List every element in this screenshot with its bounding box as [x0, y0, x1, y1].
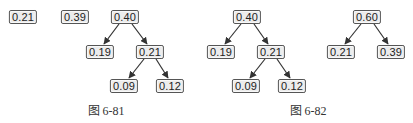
node-0.12: 0.12: [278, 79, 306, 93]
node-0.40-root: 0.40: [233, 10, 261, 24]
node-0.12: 0.12: [156, 79, 184, 93]
node-0.60-root: 0.60: [353, 10, 381, 24]
node-0.19: 0.19: [207, 45, 235, 59]
node-0.40-root: 0.40: [111, 10, 139, 24]
edge-arrow: [225, 24, 241, 44]
node-0.21-internal: 0.21: [136, 45, 164, 59]
node-0.39: 0.39: [377, 45, 405, 59]
node-0.21-internal: 0.21: [257, 45, 285, 59]
node-0.09: 0.09: [232, 79, 260, 93]
node-0.39-standalone: 0.39: [61, 10, 89, 24]
edge-arrow: [156, 59, 168, 78]
figure-caption-6-82: 图 6-82: [290, 101, 327, 119]
edge-arrow: [129, 59, 144, 78]
edge-arrow: [345, 24, 361, 44]
node-0.21-standalone: 0.21: [9, 10, 37, 24]
edge-arrow: [254, 24, 268, 44]
figure-caption-6-81: 图 6-81: [88, 101, 125, 119]
node-0.21: 0.21: [327, 45, 355, 59]
node-0.09: 0.09: [110, 79, 138, 93]
edge-arrow: [132, 24, 147, 44]
edge-arrow: [374, 24, 388, 44]
edge-arrow: [277, 59, 290, 78]
node-0.19: 0.19: [86, 45, 114, 59]
edge-arrow: [250, 59, 265, 78]
edge-arrow: [104, 24, 119, 44]
